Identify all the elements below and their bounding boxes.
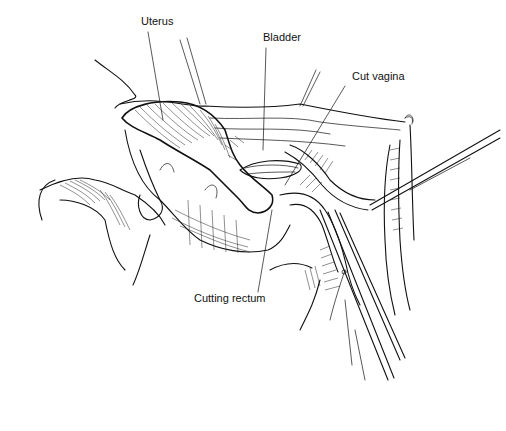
surgical-illustration: Uterus Bladder Cut vagina Cutting rectum (0, 0, 506, 431)
label-uterus: Uterus (141, 15, 174, 27)
label-bladder: Bladder (263, 31, 301, 43)
label-cut-vagina: Cut vagina (352, 70, 405, 82)
label-cutting-rectum: Cutting rectum (194, 292, 266, 304)
